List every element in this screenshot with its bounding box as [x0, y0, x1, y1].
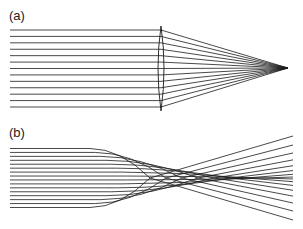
optics-diagram: [0, 0, 303, 229]
panel-b-rays: [10, 136, 293, 220]
panel-a-rays: [10, 30, 288, 107]
